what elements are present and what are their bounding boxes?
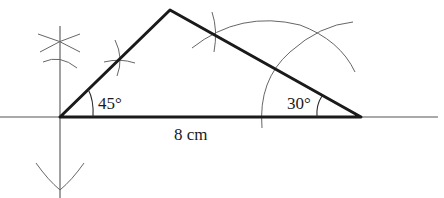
angle-arc-45 — [88, 89, 93, 117]
construction-arc — [212, 12, 216, 52]
construction-arc-large — [192, 21, 355, 72]
angle-arc-30 — [317, 96, 322, 117]
construction-arc — [36, 163, 60, 190]
angle-label-right: 30° — [287, 94, 311, 113]
base-length-label: 8 cm — [174, 125, 208, 144]
construction-arc — [60, 163, 84, 190]
triangle-construction-diagram: 45° 30° 8 cm — [0, 0, 444, 198]
angle-label-left: 45° — [98, 94, 122, 113]
